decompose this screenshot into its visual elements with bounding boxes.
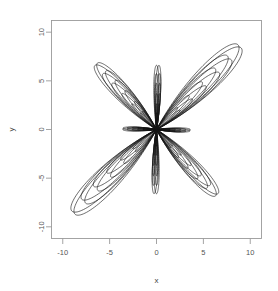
x-axis-title: x — [155, 276, 159, 285]
x-tick-label: 0 — [154, 248, 158, 257]
y-tick-label: 5 — [37, 79, 46, 83]
plot-figure: -10-50510 1050-5-10 x y — [0, 0, 278, 291]
y-tick-label: -5 — [37, 175, 46, 182]
y-tick-label: 0 — [37, 127, 46, 131]
x-tick-label: -5 — [106, 248, 113, 257]
x-tick-label: 5 — [201, 248, 205, 257]
plot-canvas: -10-50510 1050-5-10 x y — [0, 0, 278, 291]
y-tick-label: 10 — [37, 28, 46, 36]
y-axis-title: y — [7, 128, 16, 132]
y-tick-label: -10 — [37, 221, 46, 232]
x-tick-label: 10 — [246, 248, 254, 257]
x-tick-label: -10 — [57, 248, 68, 257]
